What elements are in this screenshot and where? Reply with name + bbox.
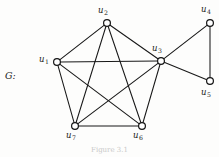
graph-vertex-u4 xyxy=(207,20,214,27)
graph-edge xyxy=(164,25,208,59)
graph-vertex-u3 xyxy=(158,58,165,65)
graph-vertex-u2 xyxy=(104,20,111,27)
vertex-label-u5: u5 xyxy=(201,88,211,97)
vertex-label-u4: u4 xyxy=(201,5,211,14)
figure-caption: Figure 3.1 xyxy=(0,146,219,157)
vertex-label-u7: u7 xyxy=(66,131,76,140)
graph-vertex-u6 xyxy=(139,123,146,130)
vertex-label-u2: u2 xyxy=(98,6,108,15)
vertex-layer xyxy=(54,20,214,130)
graph-figure: G: u1u2u3u4u5u6u7 Figure 3.1 xyxy=(0,0,219,157)
graph-edge xyxy=(60,61,157,62)
graph-edge xyxy=(164,62,207,79)
graph-vertex-u7 xyxy=(72,123,79,130)
graph-edge xyxy=(76,26,106,123)
graph-canvas xyxy=(0,0,219,157)
graph-edge xyxy=(78,63,159,124)
vertex-label-u1: u1 xyxy=(39,55,49,64)
vertex-label-u3: u3 xyxy=(152,44,162,53)
edge-layer xyxy=(58,25,210,126)
graph-vertex-u5 xyxy=(207,78,214,85)
vertex-label-u6: u6 xyxy=(133,131,143,140)
graph-edge xyxy=(58,65,74,122)
graph-vertex-u1 xyxy=(54,59,61,66)
graph-edge xyxy=(108,26,141,123)
